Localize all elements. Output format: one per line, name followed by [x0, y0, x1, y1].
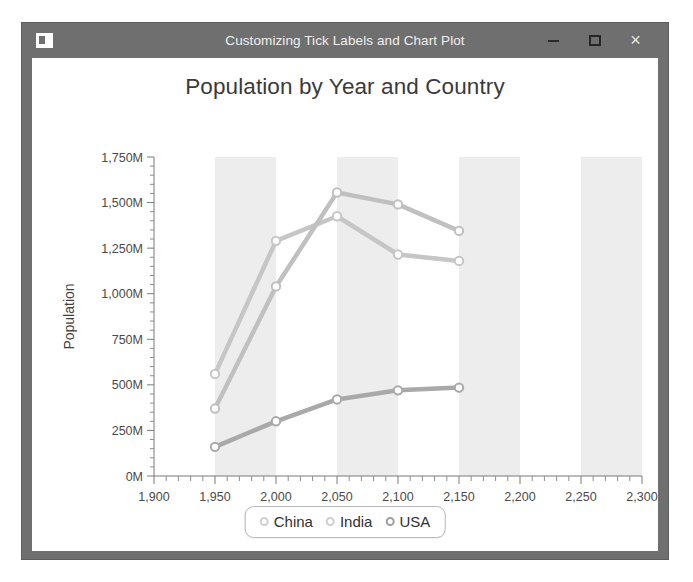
minimize-button[interactable]: [533, 26, 574, 56]
legend-marker-usa: [385, 517, 394, 526]
data-point-usa[interactable]: [333, 395, 341, 403]
window-controls: ×: [533, 23, 656, 58]
application-window: Customizing Tick Labels and Chart Plot ×…: [21, 22, 669, 560]
y-tick-label: 1,000M: [101, 287, 143, 301]
data-point-india[interactable]: [272, 282, 280, 290]
x-tick-label: 2,200: [504, 490, 535, 504]
x-tick-label: 1,950: [199, 490, 230, 504]
x-tick-label: 2,300: [626, 490, 657, 504]
x-tick-label: 1,900: [138, 490, 169, 504]
data-point-usa[interactable]: [455, 383, 463, 391]
close-button[interactable]: ×: [615, 26, 656, 56]
data-point-india[interactable]: [455, 227, 463, 235]
minimize-icon: [548, 40, 559, 42]
x-tick-label: 2,000: [260, 490, 291, 504]
legend-item-india[interactable]: India: [326, 513, 373, 530]
legend-marker-india: [326, 517, 335, 526]
y-tick-label: 250M: [112, 424, 143, 438]
x-tick-label: 2,150: [443, 490, 474, 504]
legend-label-china: China: [274, 513, 313, 530]
maximize-button[interactable]: [574, 26, 615, 56]
plot-band: [581, 157, 642, 476]
data-point-china[interactable]: [272, 237, 280, 245]
x-tick-label: 2,250: [565, 490, 596, 504]
plot-band: [215, 157, 276, 476]
legend-marker-china: [260, 517, 269, 526]
y-tick-label: 1,250M: [101, 242, 143, 256]
y-tick-label: 500M: [112, 378, 143, 392]
client-area: Population by Year and Country 0M250M500…: [32, 58, 658, 551]
data-point-india[interactable]: [211, 404, 219, 412]
data-point-usa[interactable]: [394, 386, 402, 394]
y-tick-label: 1,750M: [101, 151, 143, 165]
chart-canvas: 0M250M500M750M1,000M1,250M1,500M1,750M1,…: [32, 58, 658, 551]
legend-item-usa[interactable]: USA: [385, 513, 430, 530]
title-bar[interactable]: Customizing Tick Labels and Chart Plot ×: [32, 23, 658, 58]
data-point-india[interactable]: [333, 188, 341, 196]
x-tick-label: 2,050: [321, 490, 352, 504]
legend-label-usa: USA: [399, 513, 430, 530]
data-point-china[interactable]: [333, 212, 341, 220]
data-point-usa[interactable]: [272, 417, 280, 425]
data-point-china[interactable]: [455, 257, 463, 265]
legend-item-china[interactable]: China: [260, 513, 313, 530]
y-axis-title: Population: [61, 283, 77, 349]
data-point-china[interactable]: [211, 370, 219, 378]
close-icon: ×: [630, 31, 641, 49]
y-tick-label: 750M: [112, 333, 143, 347]
plot-band: [459, 157, 520, 476]
data-point-india[interactable]: [394, 200, 402, 208]
app-icon: [36, 33, 53, 48]
legend-label-india: India: [340, 513, 373, 530]
data-point-usa[interactable]: [211, 443, 219, 451]
maximize-icon: [589, 35, 601, 46]
x-tick-label: 2,100: [382, 490, 413, 504]
data-point-china[interactable]: [394, 250, 402, 258]
y-tick-label: 0M: [126, 470, 143, 484]
y-tick-label: 1,500M: [101, 196, 143, 210]
chart-legend: China India USA: [245, 506, 446, 538]
